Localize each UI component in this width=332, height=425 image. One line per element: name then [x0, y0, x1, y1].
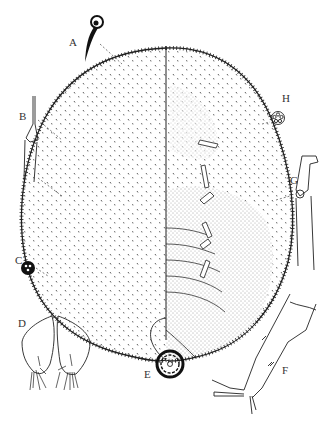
duct-g-icon — [296, 156, 318, 270]
label-c: C — [15, 254, 22, 266]
label-e: E — [144, 368, 151, 380]
label-b: B — [19, 110, 26, 122]
pore-c-icon — [21, 261, 35, 275]
label-a: A — [69, 36, 77, 48]
anal-lobes-d-icon — [22, 316, 90, 390]
label-g: G — [290, 174, 298, 186]
seta-a-icon — [85, 16, 103, 62]
label-d: D — [18, 317, 26, 329]
body-outline — [21, 48, 292, 361]
pore-h-icon — [272, 112, 285, 125]
label-f: F — [282, 364, 288, 376]
morphology-plate — [0, 0, 332, 425]
pore-e-icon — [157, 351, 183, 377]
label-h: H — [282, 92, 290, 104]
